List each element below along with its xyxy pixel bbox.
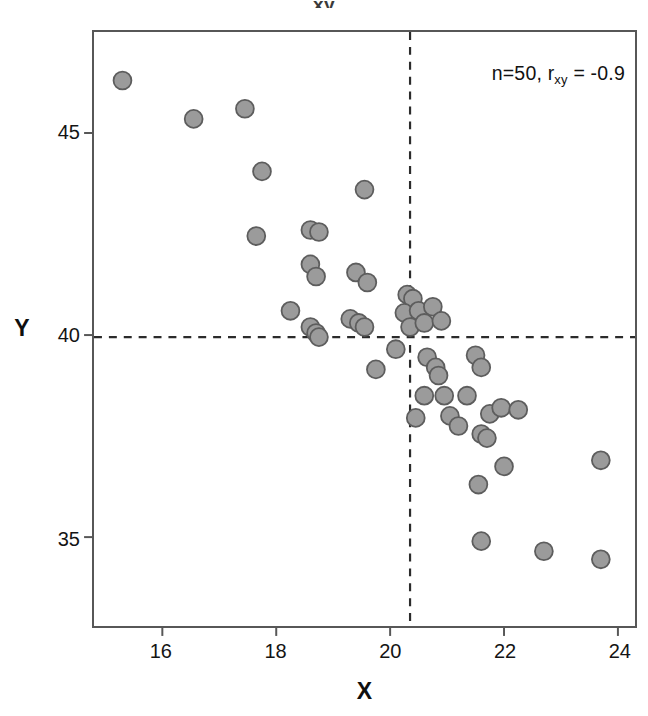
y-tick-label: 45 — [22, 120, 80, 143]
data-point — [367, 360, 385, 378]
data-point — [236, 100, 254, 118]
data-point — [415, 314, 433, 332]
plot-svg — [94, 32, 635, 626]
annotation-suffix: = -0.9 — [568, 62, 625, 84]
data-point — [415, 387, 433, 405]
data-point — [495, 457, 513, 475]
data-point — [492, 399, 510, 417]
plot-area: n=50, rxy = -0.9 — [92, 30, 637, 628]
data-point — [247, 227, 265, 245]
data-point — [458, 387, 476, 405]
x-axis-title: X — [92, 678, 637, 705]
y-tick-labels: 354045 — [0, 0, 80, 716]
data-point — [282, 302, 300, 320]
data-point — [469, 476, 487, 494]
x-tick-label: 22 — [494, 640, 516, 663]
y-tick-label: 35 — [22, 527, 80, 550]
cropped-title-subscript: xy — [313, 0, 335, 8]
data-point — [307, 268, 325, 286]
correlation-annotation: n=50, rxy = -0.9 — [492, 62, 625, 85]
x-tick-label: 16 — [150, 640, 172, 663]
data-point — [310, 223, 328, 241]
x-tick-label: 24 — [609, 640, 631, 663]
scatter-figure: xy n=50, rxy = -0.9 1618202224 354045 X … — [0, 0, 648, 716]
data-point — [592, 451, 610, 469]
y-axis-title: Y — [0, 315, 52, 342]
data-point — [387, 340, 405, 358]
data-point — [253, 162, 271, 180]
x-tick-label: 20 — [379, 640, 401, 663]
data-point — [509, 401, 527, 419]
data-point — [356, 181, 374, 199]
data-point — [310, 328, 328, 346]
data-point — [478, 429, 496, 447]
data-point — [358, 274, 376, 292]
data-point — [407, 409, 425, 427]
annotation-prefix: n=50, r — [492, 62, 555, 84]
x-tick-label: 18 — [264, 640, 286, 663]
data-point — [185, 110, 203, 128]
cropped-title-fragment: xy — [0, 0, 648, 8]
data-point — [432, 312, 450, 330]
data-point — [430, 367, 448, 385]
annotation-subscript: xy — [554, 72, 567, 87]
data-point — [356, 318, 374, 336]
data-point — [114, 72, 132, 90]
data-point — [450, 417, 468, 435]
data-point — [592, 550, 610, 568]
data-point — [472, 358, 490, 376]
data-point — [472, 532, 490, 550]
data-point — [535, 542, 553, 560]
data-point — [435, 387, 453, 405]
